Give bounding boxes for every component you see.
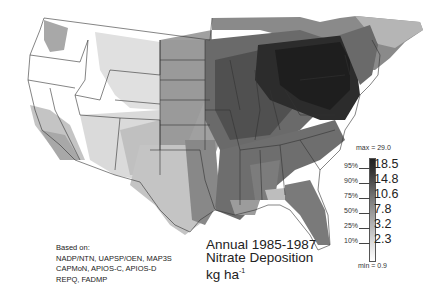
legend-value: 3.2 — [374, 217, 391, 231]
legend-value: 2.3 — [374, 232, 391, 246]
map-title: Annual 1985-1987 Nitrate Deposition kg h… — [206, 238, 316, 281]
legend-row-90: 90% 14.8 — [336, 173, 416, 187]
legend-value: 7.8 — [374, 202, 391, 216]
sources-heading: Based on: — [56, 243, 172, 254]
legend-tick — [359, 168, 370, 169]
legend-percentile: 95% — [336, 162, 358, 169]
sources-line: NADP/NTN, UAPSP/OEN, MAP3S — [56, 254, 172, 265]
legend-min-label: min = 0.9 — [358, 262, 387, 269]
legend-row-95: 95% 18.5 — [336, 158, 416, 172]
legend-tick — [359, 198, 370, 199]
legend-max-label: max = 29.0 — [356, 144, 391, 151]
legend-row-10: 10% 2.3 — [336, 233, 416, 247]
legend-percentile: 25% — [336, 222, 358, 229]
legend-percentile: 50% — [336, 207, 358, 214]
legend-row-75: 75% 10.6 — [336, 188, 416, 202]
legend-percentile: 75% — [336, 192, 358, 199]
legend-percentile: 10% — [336, 237, 358, 244]
legend-percentile: 90% — [336, 177, 358, 184]
sources-line: REPQ, FADMP — [56, 275, 172, 286]
legend-value: 18.5 — [374, 157, 398, 171]
units-label: kg ha-1 — [206, 264, 316, 281]
legend-tick — [359, 243, 370, 244]
data-sources: Based on: NADP/NTN, UAPSP/OEN, MAP3S CAP… — [56, 243, 172, 285]
legend-row-50: 50% 7.8 — [336, 203, 416, 217]
sources-line: CAPMoN, APIOS-C, APIOS-D — [56, 264, 172, 275]
title-line-2: Nitrate Deposition — [206, 251, 316, 264]
legend-tick — [359, 228, 370, 229]
legend-row-25: 25% 3.2 — [336, 218, 416, 232]
legend-value: 14.8 — [374, 172, 398, 186]
legend-value: 10.6 — [374, 187, 398, 201]
legend-tick — [359, 183, 370, 184]
legend-tick — [359, 213, 370, 214]
